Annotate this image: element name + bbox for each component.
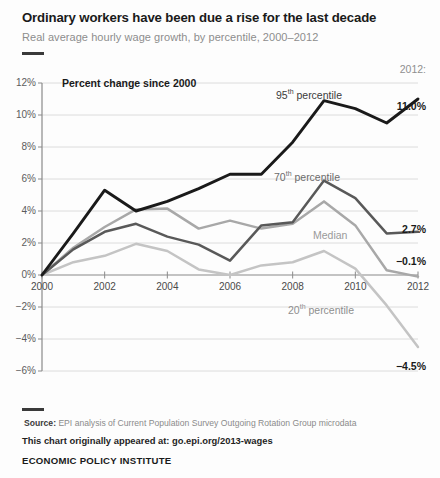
divider-top xyxy=(22,52,44,55)
chart-plot-area: Percent change since 2000 2012: −6%−4%−2… xyxy=(0,60,440,390)
x-tick-label: 2012 xyxy=(398,281,438,292)
end-value-median: −0.1% xyxy=(396,255,426,267)
y-tick-label: 4% xyxy=(2,205,36,216)
organization-name: ECONOMIC POLICY INSTITUTE xyxy=(22,455,171,466)
series-label-p95: 95th percentile xyxy=(276,88,342,101)
y-tick-label: 12% xyxy=(2,77,36,88)
x-tick-label: 2006 xyxy=(210,281,250,292)
y-tick-label: −6% xyxy=(2,365,36,376)
y-tick-label: 0% xyxy=(2,269,36,280)
series-label-p70: 70th percentile xyxy=(274,170,340,183)
page-subtitle: Real average hourly wage growth, by perc… xyxy=(22,31,422,43)
x-tick-label: 2004 xyxy=(147,281,187,292)
data-series-lines xyxy=(42,99,418,347)
divider-bottom xyxy=(22,408,44,411)
source-label: Source: xyxy=(24,418,56,428)
chart-card: Ordinary workers have been due a rise fo… xyxy=(0,0,440,478)
chart-origin-note: This chart originally appeared at: go.ep… xyxy=(22,435,273,446)
y-tick-label: −4% xyxy=(2,333,36,344)
y-tick-label: 2% xyxy=(2,237,36,248)
gridlines xyxy=(42,83,418,371)
x-tick-label: 2000 xyxy=(22,281,62,292)
y-tick-label: 6% xyxy=(2,173,36,184)
x-tick-label: 2008 xyxy=(273,281,313,292)
end-value-p95: 11.0% xyxy=(397,100,426,112)
page-title: Ordinary workers have been due a rise fo… xyxy=(22,10,422,26)
x-tick-marks xyxy=(38,83,418,371)
chart-svg xyxy=(0,60,440,390)
y-tick-label: 8% xyxy=(2,141,36,152)
series-label-p20: 20th percentile xyxy=(288,303,354,316)
end-value-p20: −4.5% xyxy=(396,360,426,372)
source-note: Source: EPI analysis of Current Populati… xyxy=(24,418,356,428)
x-tick-label: 2002 xyxy=(85,281,125,292)
y-tick-label: −2% xyxy=(2,301,36,312)
series-label-median: Median xyxy=(313,229,347,241)
x-tick-label: 2010 xyxy=(335,281,375,292)
end-value-p70: 2.7% xyxy=(402,223,426,235)
y-axis-note: Percent change since 2000 xyxy=(62,77,196,89)
end-year-header: 2012: xyxy=(400,63,426,75)
source-text: EPI analysis of Current Population Surve… xyxy=(56,418,356,428)
y-tick-label: 10% xyxy=(2,109,36,120)
